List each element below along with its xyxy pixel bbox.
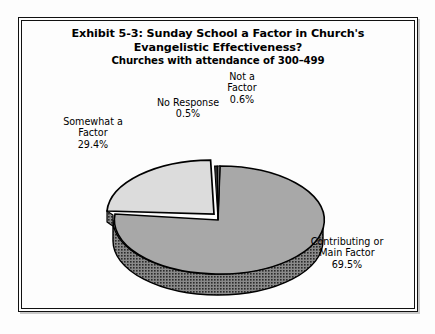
pie-label-contributing-or-main-factor-line-1: Contributing or [291, 236, 403, 247]
pie-slice-no-response [215, 166, 218, 220]
pie-label-contributing-or-main-factor: Contributing or Main Factor 69.5% [291, 236, 403, 270]
pie-label-somewhat-a-factor-line-1: Somewhat a [43, 116, 143, 127]
pie-label-not-a-factor-line-1: Not a [205, 71, 279, 82]
pie-label-no-response-line-1: No Response [147, 97, 229, 108]
pie-label-contributing-or-main-factor-line-2: Main Factor [291, 247, 403, 258]
pie-label-not-a-factor-line-2: Factor [205, 82, 279, 93]
pie-label-contributing-or-main-factor-value: 69.5% [291, 259, 403, 270]
pie-label-somewhat-a-factor-line-2: Factor [43, 127, 143, 138]
pie-label-no-response-value: 0.5% [147, 108, 229, 119]
chart-figure-frame: Exhibit 5-3: Sunday School a Factor in C… [18, 17, 418, 312]
pie-label-no-response: No Response 0.5% [147, 97, 229, 120]
pie-label-somewhat-a-factor: Somewhat a Factor 29.4% [43, 116, 143, 150]
pie-label-somewhat-a-factor-value: 29.4% [43, 139, 143, 150]
pie-slice-somewhat-a-factor [107, 160, 214, 214]
